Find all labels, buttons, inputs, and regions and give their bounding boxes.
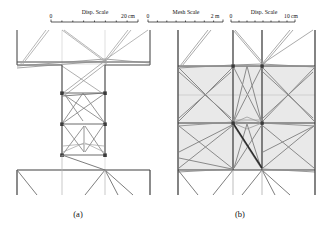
structural-diagram-svg: 0 Disp. Scale 20 cm 0 Mesh Scale 2 m xyxy=(0,0,326,230)
panel-b-base-stubs xyxy=(178,170,315,195)
scale-bar-disp-right: 0 Disp. Scale 10 cm xyxy=(230,9,299,22)
panel-b-geometry: (b) xyxy=(178,30,315,219)
scale-bar-mesh: 0 Mesh Scale 2 m xyxy=(147,9,223,22)
scale-title: Disp. Scale xyxy=(82,9,109,15)
panel-b-base-legs xyxy=(178,170,290,195)
scale-start-label: 0 xyxy=(230,13,233,19)
panel-a-base-beam xyxy=(17,170,150,195)
panel-a-geometry: (a) xyxy=(17,30,150,219)
scale-ticks xyxy=(51,20,138,23)
panel-a-top-beam-outline xyxy=(17,30,150,65)
scale-end-label: 20 cm xyxy=(121,13,135,19)
figure-container: 0 Disp. Scale 20 cm 0 Mesh Scale 2 m xyxy=(0,0,326,230)
panel-b-base-gridlines xyxy=(233,170,262,195)
panel-b-caption: (b) xyxy=(235,209,245,219)
panel-a-transfer-diagonals xyxy=(62,60,108,95)
panel-a-caption: (a) xyxy=(73,209,83,219)
panel-a-tower-columns xyxy=(62,65,105,155)
panel-a-deformed-top-chords xyxy=(17,59,150,68)
scale-ticks xyxy=(148,20,223,23)
panel-a-base-legs xyxy=(17,155,133,195)
panel-a-brace-bay1 xyxy=(63,93,104,123)
panel-a-base-gridlines xyxy=(62,155,105,195)
scale-start-label: 0 xyxy=(147,13,150,19)
scale-end-label: 10 cm xyxy=(284,13,298,19)
scale-end-label: 2 m xyxy=(211,13,220,19)
scale-bar-disp-left: 0 Disp. Scale 20 cm xyxy=(50,9,138,22)
panel-a-top-braces xyxy=(20,30,148,65)
scale-ticks xyxy=(231,20,295,23)
panel-b-shaded-cells xyxy=(178,66,315,170)
panel-b-top-braces xyxy=(180,30,313,66)
scale-title: Disp. Scale xyxy=(251,9,278,15)
scale-start-label: 0 xyxy=(50,13,53,19)
scale-title: Mesh Scale xyxy=(173,9,200,15)
